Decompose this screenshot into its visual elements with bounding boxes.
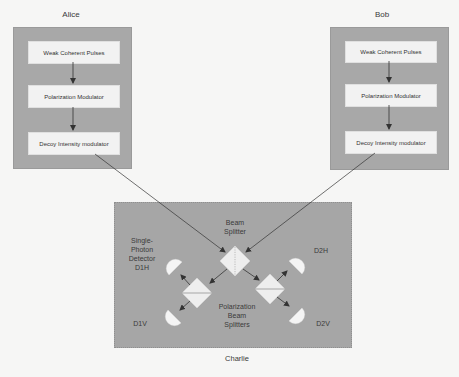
detector-d1v-icon	[165, 310, 181, 326]
detector-d2v-icon	[289, 308, 305, 324]
bob-to-beam-splitter-arrow	[246, 153, 375, 252]
detector-d2h-icon	[289, 258, 305, 274]
alice-to-beam-splitter-arrow	[95, 154, 225, 252]
diagram-graphics	[0, 0, 459, 377]
detector-d1h-icon	[166, 259, 182, 275]
polarization-beam-splitter-1-icon	[182, 278, 212, 308]
